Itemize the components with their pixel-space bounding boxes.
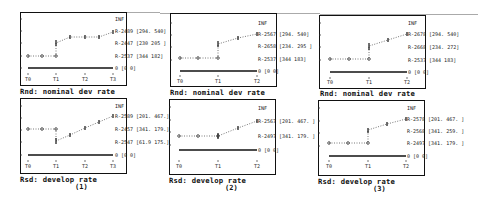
y-label: INF — [407, 106, 416, 111]
y-label: R-2497 [341. 179. ] — [407, 141, 464, 146]
subfigure-number: (3) — [373, 185, 386, 193]
y-label: R-2568 [341. 259. ] — [407, 129, 464, 134]
x-tick: T0 — [326, 164, 332, 169]
plot-bottom-3 — [0, 0, 478, 205]
y-label: 0 [0 0] — [407, 154, 428, 159]
y-label: R-2578 [201. 467. ] — [407, 117, 464, 122]
x-tick: T1 — [365, 164, 371, 169]
x-tick: T2 — [403, 164, 409, 169]
